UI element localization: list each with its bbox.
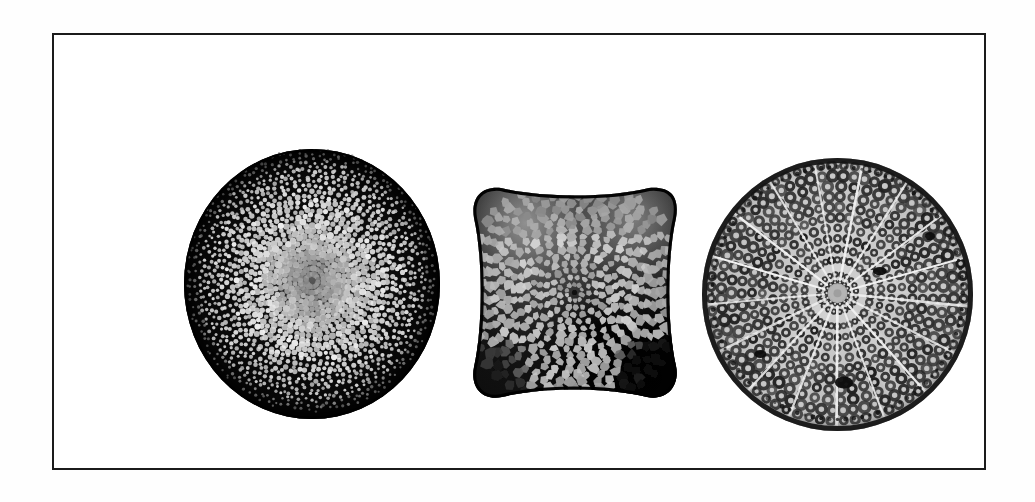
specimen-1-dark-punctate-disc: [184, 149, 440, 419]
diatom-plate: [0, 0, 1035, 502]
specimen-3-radial-disc: [702, 158, 973, 431]
plate-frame: [52, 33, 986, 470]
specimen-3-ribs-and-areolae: [702, 158, 973, 431]
specimen-1-areolae: [184, 149, 440, 419]
specimen-2-cushion-valve: [471, 184, 680, 401]
specimen-2-valve-face: [471, 184, 680, 401]
specimen-2-areolae-mesh: [471, 184, 680, 401]
